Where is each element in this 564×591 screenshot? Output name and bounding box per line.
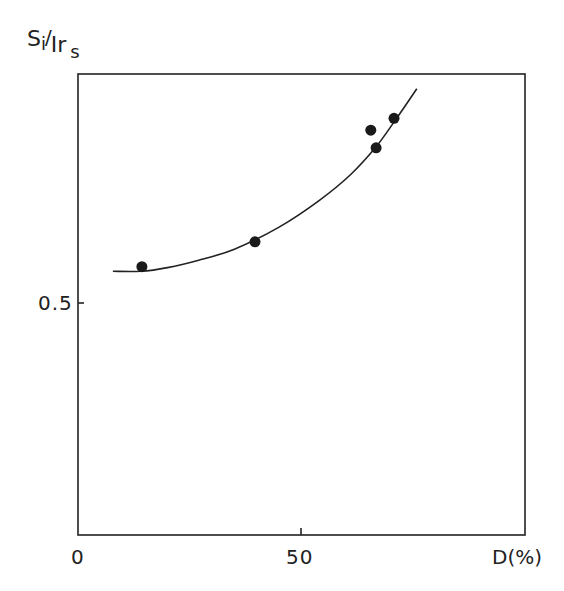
y-tick-label-0.5: 0.5	[38, 291, 73, 315]
data-point	[371, 142, 382, 153]
data-point	[136, 261, 147, 272]
chart-plot	[0, 0, 564, 591]
x-tick-label-50: 50	[286, 545, 313, 569]
x-axis-label: D(%)	[492, 545, 542, 569]
data-point	[365, 125, 376, 136]
plot-frame	[78, 74, 525, 535]
data-point	[389, 113, 400, 124]
data-point	[250, 236, 261, 247]
fit-curve	[113, 89, 417, 272]
x-tick-label-0: 0	[71, 545, 85, 569]
data-points	[136, 113, 399, 272]
